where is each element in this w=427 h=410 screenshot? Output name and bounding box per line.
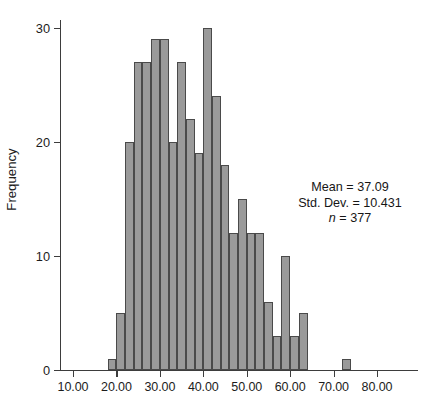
stat-sample-size: n = 377	[284, 211, 416, 227]
y-axis-tick	[54, 142, 60, 143]
histogram-bar	[177, 62, 186, 370]
x-axis-tick-label: 80.00	[362, 380, 393, 394]
y-axis-line	[60, 20, 61, 371]
histogram-bar	[151, 39, 160, 370]
y-axis-tick-label: 0	[43, 363, 50, 378]
histogram-bar	[255, 233, 264, 370]
histogram-bar	[108, 359, 117, 370]
histogram-bar	[212, 96, 221, 370]
stats-annotation: Mean = 37.09 Std. Dev. = 10.431 n = 377	[284, 180, 416, 227]
y-axis-tick	[54, 256, 60, 257]
x-axis-tick	[160, 371, 161, 377]
x-axis-tick	[334, 371, 335, 377]
histogram-bar	[195, 153, 204, 370]
histogram-bar	[203, 28, 212, 370]
histogram-bar	[290, 336, 299, 370]
x-axis-tick-label: 40.00	[188, 380, 219, 394]
histogram-bar	[281, 256, 290, 370]
y-axis-tick	[54, 370, 60, 371]
histogram-bar	[342, 359, 351, 370]
histogram-bar	[221, 165, 230, 370]
x-axis-tick	[377, 371, 378, 377]
y-axis-tick-label: 30	[36, 21, 50, 36]
x-axis-tick-label: 50.00	[231, 380, 262, 394]
histogram-bar	[169, 142, 178, 370]
histogram-figure: 10.0020.0030.0040.0050.0060.0070.0080.00…	[0, 0, 427, 410]
y-axis-tick	[54, 28, 60, 29]
histogram-bar	[160, 39, 169, 370]
histogram-bar	[186, 119, 195, 370]
x-axis-tick-label: 60.00	[275, 380, 306, 394]
x-axis-tick-label: 70.00	[318, 380, 349, 394]
stat-std-dev: Std. Dev. = 10.431	[284, 196, 416, 212]
y-axis-title: Frequency	[4, 105, 19, 255]
histogram-bar	[264, 302, 273, 370]
x-axis-tick	[290, 371, 291, 377]
stat-n-value: = 377	[336, 211, 371, 225]
y-axis-tick-label: 10	[36, 249, 50, 264]
x-axis-tick	[203, 371, 204, 377]
histogram-bar	[142, 62, 151, 370]
histogram-bar	[247, 233, 256, 370]
x-axis-tick-label: 20.00	[101, 380, 132, 394]
x-axis-tick	[116, 371, 117, 377]
x-axis-line	[60, 370, 418, 371]
x-axis-tick	[73, 371, 74, 377]
histogram-bar	[273, 336, 282, 370]
x-axis-tick-label: 30.00	[144, 380, 175, 394]
histogram-bar	[238, 199, 247, 370]
histogram-bar	[134, 62, 143, 370]
stat-mean: Mean = 37.09	[284, 180, 416, 196]
x-axis-tick-label: 10.00	[58, 380, 89, 394]
x-axis-tick	[247, 371, 248, 377]
histogram-bar	[125, 142, 134, 370]
histogram-bar	[299, 313, 308, 370]
histogram-bar	[229, 233, 238, 370]
stat-n-symbol: n	[329, 211, 336, 225]
y-axis-tick-label: 20	[36, 135, 50, 150]
histogram-bar	[116, 313, 125, 370]
